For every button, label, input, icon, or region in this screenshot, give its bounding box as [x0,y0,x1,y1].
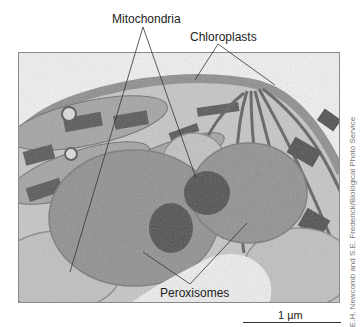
electron-micrograph [18,52,340,303]
micrograph-drawing [19,53,340,303]
scale-bar [243,322,341,323]
photo-credit: E.H. Newcomb and S.E. Frederick/Biologic… [348,117,357,327]
scale-bar-label: 1 µm [278,309,303,321]
peroxisomes-label: Peroxisomes [160,286,229,300]
mitochondria-label: Mitochondria [112,12,181,26]
chloroplasts-label: Chloroplasts [190,30,257,44]
